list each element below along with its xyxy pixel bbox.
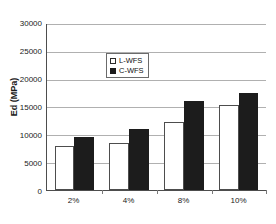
bar-group-4pct	[102, 24, 157, 190]
bar-slot	[239, 24, 259, 190]
bar-group-8pct	[157, 24, 212, 190]
legend-swatch-filled-square-icon	[110, 68, 116, 74]
bar-slot	[74, 24, 94, 190]
x-axis-tick	[157, 190, 158, 194]
y-tick-label: 5000	[8, 160, 42, 168]
legend-item-l-wfs[interactable]: L-WFS	[110, 56, 144, 65]
x-tick-label-10pct: 10%	[211, 196, 266, 205]
legend-label: C-WFS	[119, 66, 144, 75]
bar-l-wfs-4pct[interactable]	[109, 143, 129, 190]
bar-l-wfs-10pct[interactable]	[219, 105, 239, 191]
bar-slot	[55, 24, 75, 190]
plot-area: L-WFS C-WFS	[46, 24, 266, 191]
bar-c-wfs-10pct[interactable]	[239, 93, 259, 190]
bar-c-wfs-2pct[interactable]	[74, 137, 94, 190]
bar-slot	[129, 24, 149, 190]
legend-swatch-open-square-icon	[110, 58, 116, 64]
y-tick-label: 10000	[8, 132, 42, 140]
x-axis-tick	[266, 190, 267, 194]
x-tick-label-2pct: 2%	[46, 196, 101, 205]
x-axis-tick	[212, 190, 213, 194]
y-tick-label: 0	[8, 188, 42, 196]
bar-group-10pct	[211, 24, 266, 190]
y-tick-label: 25000	[8, 48, 42, 56]
legend-label: L-WFS	[119, 56, 142, 65]
y-tick-label: 15000	[8, 104, 42, 112]
bar-slot	[219, 24, 239, 190]
y-tick-label: 20000	[8, 76, 42, 84]
bar-l-wfs-2pct[interactable]	[55, 146, 75, 190]
bar-c-wfs-4pct[interactable]	[129, 129, 149, 190]
legend-item-c-wfs[interactable]: C-WFS	[110, 66, 144, 75]
y-axis-tick-labels: 30000 25000 20000 15000 10000 5000 0	[6, 0, 42, 224]
x-tick-label-8pct: 8%	[156, 196, 211, 205]
bar-group-2pct	[47, 24, 102, 190]
bar-c-wfs-8pct[interactable]	[184, 101, 204, 190]
x-tick-label-4pct: 4%	[101, 196, 156, 205]
y-tick-label: 30000	[8, 20, 42, 28]
bar-groups	[47, 24, 266, 190]
bar-slot	[109, 24, 129, 190]
bar-chart: Ed (MPa) 30000 25000 20000 15000 10000 5…	[0, 0, 276, 224]
x-axis-tick-labels: 2% 4% 8% 10%	[46, 196, 266, 205]
legend: L-WFS C-WFS	[106, 53, 149, 78]
bar-l-wfs-8pct[interactable]	[164, 122, 184, 190]
bar-slot	[184, 24, 204, 190]
bar-slot	[164, 24, 184, 190]
x-axis-tick	[102, 190, 103, 194]
